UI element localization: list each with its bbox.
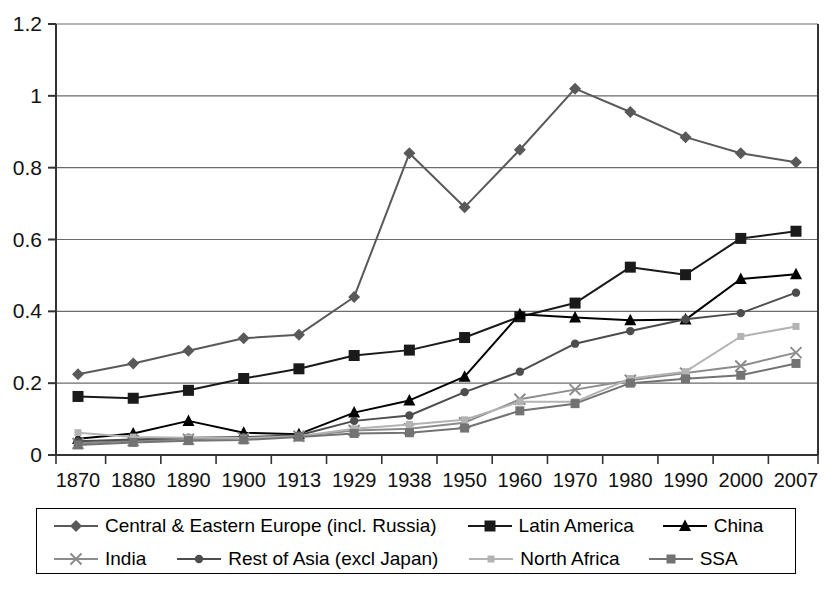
data-point (182, 414, 194, 426)
data-point (184, 436, 193, 445)
data-point (293, 363, 304, 374)
legend-item-north-africa[interactable]: North Africa (468, 549, 619, 568)
y-tick-label: 1 (30, 84, 42, 107)
x-tick-label: 1900 (221, 469, 266, 491)
x-tick-label: 1950 (442, 469, 487, 491)
data-point (516, 367, 524, 375)
data-point (74, 440, 83, 449)
series-3 (72, 268, 802, 444)
data-point (680, 131, 692, 143)
data-point (459, 332, 470, 343)
data-point (793, 323, 800, 330)
series-6 (75, 323, 800, 442)
legend-marker-x-icon (53, 551, 99, 567)
data-point (127, 357, 139, 369)
data-point (488, 555, 495, 562)
data-point (735, 147, 747, 159)
data-point (293, 329, 305, 341)
x-tick-label: 1880 (111, 469, 156, 491)
data-point (406, 421, 413, 428)
data-point (294, 433, 303, 442)
data-point (516, 398, 523, 405)
legend-row-1: Central & Eastern Europe (incl. Russia)L… (37, 509, 795, 542)
data-point (182, 345, 194, 357)
y-tick-label: 1.2 (13, 12, 42, 35)
series-line (78, 274, 796, 438)
x-tick-label: 1890 (166, 469, 211, 491)
data-point (239, 435, 248, 444)
data-point (625, 262, 636, 273)
legend-label: SSA (700, 549, 738, 568)
data-point (348, 291, 360, 303)
x-tick-label: 1980 (608, 469, 653, 491)
legend-label: North Africa (520, 549, 619, 568)
series-line (78, 293, 796, 442)
x-tick-label: 1913 (277, 469, 322, 491)
data-point (792, 359, 801, 368)
data-point (183, 385, 194, 396)
legend-item-china[interactable]: China (662, 516, 764, 535)
data-point (737, 333, 744, 340)
x-axis (48, 24, 818, 464)
legend-marker-square-gray-icon (648, 551, 694, 567)
chart-page: 1.210.80.60.40.20 1870188018901900191319… (0, 0, 831, 600)
legend-item-india[interactable]: India (53, 549, 146, 568)
data-point (681, 315, 689, 323)
y-tick-label: 0.6 (13, 228, 42, 251)
data-point (735, 233, 746, 244)
legend-label: Central & Eastern Europe (incl. Russia) (105, 516, 437, 535)
data-point (680, 269, 691, 280)
x-tick-label: 1990 (663, 469, 708, 491)
legend-label: India (105, 549, 146, 568)
data-point (349, 350, 360, 361)
legend-marker-circle-icon (176, 551, 222, 567)
data-point (626, 379, 635, 388)
legend-label: Latin America (519, 516, 634, 535)
y-tick-labels: 1.210.80.60.40.20 (13, 12, 43, 466)
x-tick-label: 1938 (387, 469, 432, 491)
data-point (72, 368, 84, 380)
data-point (461, 416, 468, 423)
chart-legend: Central & Eastern Europe (incl. Russia)L… (36, 508, 796, 574)
series-line (78, 89, 796, 375)
series-4 (73, 347, 802, 449)
legend-marker-small-square-icon (468, 551, 514, 567)
data-series-layer (72, 83, 802, 450)
data-point (484, 520, 495, 531)
legend-label: Rest of Asia (excl Japan) (228, 549, 438, 568)
data-point (75, 429, 82, 436)
data-point (737, 309, 745, 317)
legend-item-central-eastern-europe-incl-russia[interactable]: Central & Eastern Europe (incl. Russia) (53, 516, 437, 535)
legend-item-rest-of-asia-excl-japan[interactable]: Rest of Asia (excl Japan) (176, 549, 438, 568)
data-point (626, 327, 634, 335)
gridlines (56, 24, 818, 383)
legend-item-ssa[interactable]: SSA (648, 549, 738, 568)
legend-marker-triangle-icon (662, 518, 708, 534)
data-point (571, 339, 579, 347)
data-point (195, 554, 203, 562)
x-tick-label: 2007 (774, 469, 819, 491)
plot-area: 1.210.80.60.40.20 1870188018901900191319… (0, 0, 831, 500)
x-tick-label: 1929 (332, 469, 377, 491)
legend-item-latin-america[interactable]: Latin America (467, 516, 634, 535)
data-point (238, 332, 250, 344)
legend-marker-diamond-icon (53, 518, 99, 534)
data-point (736, 371, 745, 380)
y-tick-label: 0.2 (13, 371, 42, 394)
data-point (790, 156, 802, 168)
data-point (571, 399, 580, 408)
data-point (129, 438, 138, 447)
data-point (405, 411, 413, 419)
line-chart: 1.210.80.60.40.20 1870188018901900191319… (0, 0, 831, 500)
data-point (73, 391, 84, 402)
data-point (682, 368, 689, 375)
x-tick-labels: 1870188018901900191319291938195019601970… (56, 469, 819, 491)
data-point (792, 288, 800, 296)
data-point (405, 428, 414, 437)
legend-label: China (714, 516, 764, 535)
data-point (460, 424, 469, 433)
data-point (460, 388, 468, 396)
x-tick-label: 2000 (719, 469, 764, 491)
x-tick-label: 1970 (553, 469, 598, 491)
data-point (238, 373, 249, 384)
